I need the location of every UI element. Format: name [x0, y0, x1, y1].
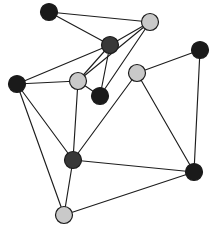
graph-node[interactable] [70, 73, 87, 90]
graph-edge [137, 73, 194, 172]
graph-edge [73, 81, 78, 160]
graph-node[interactable] [192, 42, 209, 59]
graph-edge [17, 45, 110, 84]
graph-edge [194, 50, 200, 172]
graph-edge [64, 172, 194, 215]
graph-edge [137, 50, 200, 73]
graph-node[interactable] [186, 164, 203, 181]
graph-edge [73, 160, 194, 172]
graph-node[interactable] [56, 207, 73, 224]
graph-node[interactable] [65, 152, 82, 169]
graph-canvas [0, 0, 214, 231]
graph-node[interactable] [129, 65, 146, 82]
graph-edge [17, 84, 73, 160]
graph-edge [17, 84, 64, 215]
graph-node[interactable] [41, 4, 58, 21]
graph-edge [17, 81, 78, 84]
graph-node[interactable] [142, 14, 159, 31]
graph-node[interactable] [92, 88, 109, 105]
graph-figure [0, 0, 214, 231]
graph-node[interactable] [102, 37, 119, 54]
graph-node[interactable] [9, 76, 26, 93]
